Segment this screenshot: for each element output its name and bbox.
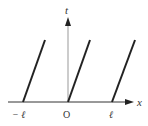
line-at-l (112, 40, 135, 102)
x-axis-label: x (136, 96, 142, 108)
line-at-origin (68, 40, 90, 102)
origin-label: O (63, 109, 70, 120)
t-axis-label: t (65, 4, 69, 16)
t-axis-arrow-icon (65, 17, 71, 26)
line-at-minus-l (23, 40, 45, 102)
characteristics-diagram: t x − ℓ O ℓ (0, 0, 148, 126)
tick-label-l: ℓ (109, 109, 113, 120)
tick-label-minus-l: − ℓ (12, 109, 25, 120)
x-axis-arrow-icon (125, 99, 134, 105)
